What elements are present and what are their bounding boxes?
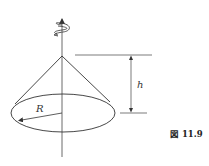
radius-label: R: [35, 103, 44, 114]
cone-diagram: R h 図 11.9: [0, 0, 209, 166]
cone-base: [11, 94, 115, 132]
radius-line: [19, 113, 62, 121]
figure-caption: 図 11.9: [170, 129, 203, 139]
cone-side-right: [62, 56, 110, 102]
height-label: h: [137, 79, 143, 90]
cone-side-left: [15, 56, 62, 104]
